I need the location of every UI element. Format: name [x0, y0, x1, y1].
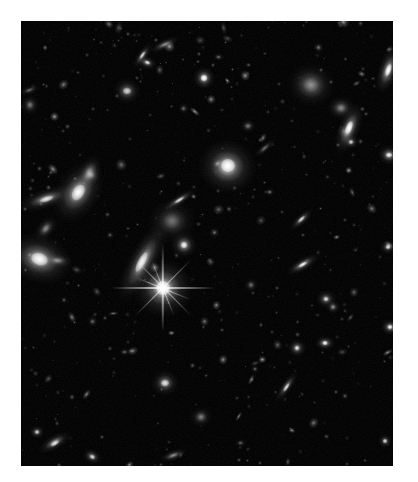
edge-on-spiral-galaxy-center-core — [134, 251, 151, 274]
faint-point-source — [296, 320, 300, 324]
knot-bottom-right — [378, 434, 391, 447]
faint-point-source — [34, 256, 36, 258]
knot-pair-right-lower — [326, 300, 339, 313]
faint-point-source — [212, 229, 213, 230]
faint-point-source — [388, 77, 392, 81]
faint-point-source — [153, 350, 155, 352]
faint-point-source — [28, 186, 33, 191]
faint-point-source — [49, 39, 52, 42]
faint-point-source — [216, 189, 220, 193]
faint-point-source — [199, 215, 202, 218]
faint-point-source — [166, 448, 168, 450]
faint-point-source — [193, 63, 196, 66]
double-knot-lower-center-core — [295, 346, 299, 350]
faint-point-source — [96, 53, 98, 55]
faint-point-source — [280, 335, 281, 336]
faint-point-source — [347, 345, 350, 348]
faint-point-source — [96, 194, 100, 198]
faint-point-source — [298, 77, 300, 79]
star-upper-center — [193, 67, 215, 89]
faint-point-source — [339, 293, 342, 296]
faint-point-source — [359, 228, 362, 231]
faint-point-source — [329, 231, 333, 235]
faint-point-source — [122, 182, 125, 185]
faint-point-source — [110, 53, 112, 55]
faint-point-source — [343, 309, 347, 313]
faint-point-source — [167, 440, 171, 444]
bright-elliptical-galaxy-upper-center-core — [220, 158, 236, 173]
bright-knot-center-lower — [315, 336, 335, 349]
faint-point-source — [288, 360, 293, 365]
bright-knot-far-right — [378, 145, 393, 165]
faint-point-source — [108, 346, 113, 351]
faint-point-source — [295, 292, 299, 296]
faint-background-galaxy — [70, 264, 83, 275]
small-galaxy-right-lower-core — [324, 297, 329, 301]
edge-on-galaxy-right-upper — [286, 205, 316, 234]
faint-point-source — [126, 227, 129, 230]
faint-point-source — [220, 318, 223, 321]
fuzzy-galaxy-right — [327, 96, 356, 120]
faint-point-source — [358, 361, 360, 363]
faint-background-galaxy — [205, 257, 217, 269]
faint-point-source — [183, 159, 186, 162]
faint-knot-lower-mid — [119, 348, 130, 357]
faint-point-source — [61, 129, 65, 133]
faint-point-source — [345, 462, 349, 466]
faint-point-source — [166, 207, 168, 209]
faint-point-source — [171, 93, 173, 95]
faint-point-source — [375, 145, 377, 147]
inclined-spiral-galaxy-left-core — [69, 182, 87, 202]
faint-point-source — [360, 107, 364, 111]
faint-point-source — [299, 396, 300, 397]
faint-background-galaxy — [168, 330, 175, 336]
faint-point-source — [99, 21, 102, 23]
faint-point-source — [305, 173, 308, 176]
faint-point-source — [284, 343, 289, 348]
diffraction-spike-2 — [134, 259, 191, 316]
faint-point-source — [68, 141, 72, 145]
knot-lower-left-corner-core — [89, 454, 95, 460]
faint-point-source — [136, 223, 139, 226]
faint-point-source — [263, 454, 265, 456]
faint-point-source — [176, 181, 181, 186]
faint-point-source — [255, 47, 257, 49]
faint-point-source — [33, 266, 35, 268]
faint-point-source — [57, 414, 58, 415]
faint-point-source — [237, 263, 239, 265]
diffraction-spike-3 — [134, 259, 191, 316]
faint-point-source — [363, 42, 364, 43]
faint-point-source — [371, 195, 374, 198]
faint-point-source — [280, 99, 285, 104]
faint-point-source — [332, 126, 334, 128]
faint-point-source — [277, 82, 281, 86]
faint-point-source — [160, 388, 163, 391]
faint-point-source — [201, 213, 204, 216]
faint-background-galaxy — [383, 240, 393, 251]
faint-point-source — [151, 35, 153, 37]
faint-point-source — [32, 346, 35, 349]
faint-point-source — [159, 192, 162, 195]
faint-point-source — [211, 63, 215, 67]
faint-point-source — [315, 53, 320, 58]
faint-point-source — [54, 241, 57, 244]
bright-knot-center-lower-core — [323, 341, 328, 344]
faint-point-source — [133, 320, 137, 324]
faint-background-galaxy — [47, 169, 54, 176]
faint-point-source — [190, 277, 195, 282]
faint-point-source — [88, 118, 91, 121]
faint-point-source — [272, 295, 274, 297]
faint-point-source — [198, 366, 202, 370]
faint-point-source — [315, 313, 320, 318]
screenshot-canvas — [0, 0, 418, 482]
knot-lower-left-edge — [29, 425, 44, 438]
diffraction-spike-5 — [151, 260, 174, 316]
faint-point-source — [353, 372, 354, 373]
edge-on-galaxy-lower-left — [36, 428, 74, 459]
faint-background-galaxy — [190, 193, 197, 200]
faint-background-galaxy — [307, 416, 321, 430]
faint-background-galaxy — [223, 76, 231, 84]
faint-point-source — [46, 185, 51, 190]
faint-point-source — [231, 68, 233, 70]
knot-lower-left-corner — [80, 446, 104, 466]
